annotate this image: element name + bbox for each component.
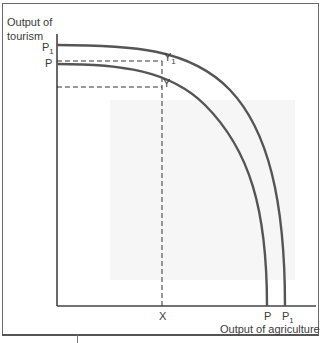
p-intercept-label: P xyxy=(45,57,52,69)
point-y1-label: Y1 xyxy=(164,51,176,63)
background-panel xyxy=(110,100,295,280)
x-axis-label: Output of agriculture xyxy=(220,323,320,335)
p1-x-intercept-label: P1 xyxy=(282,310,294,322)
p-x-intercept-label: P xyxy=(264,310,271,322)
x-marker-label: X xyxy=(159,310,166,322)
y-axis-label-line2: tourism xyxy=(7,30,43,42)
point-y-label: Y xyxy=(163,77,170,89)
y-axis-label-line1: Output of xyxy=(7,16,52,28)
p1-intercept-label: P1 xyxy=(42,41,54,53)
